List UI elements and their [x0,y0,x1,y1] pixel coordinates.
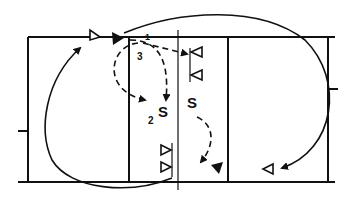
players [90,30,273,174]
court-lines [18,30,338,190]
setter-left-label: S [158,103,168,120]
volleyball-court-diagram: 1 3 2 S S [0,0,350,198]
attack-arrowhead-icon [211,162,223,174]
pass-label-3: 3 [137,51,143,62]
player-block-bottom-1-icon [161,145,171,155]
player-back-right-icon [263,164,273,174]
pass-down-path [130,40,167,100]
player-block-top-1-icon [191,47,202,57]
setter-right-label: S [187,94,197,111]
player-top-server-icon [90,30,100,40]
pass-label-2: 2 [148,115,154,126]
pass-label-1: 1 [145,32,150,42]
player-block-top-2-icon [191,70,202,80]
set-path-right [197,117,211,162]
player-block-bottom-2-icon [161,162,171,172]
ball-arrowhead-icon [112,32,124,45]
